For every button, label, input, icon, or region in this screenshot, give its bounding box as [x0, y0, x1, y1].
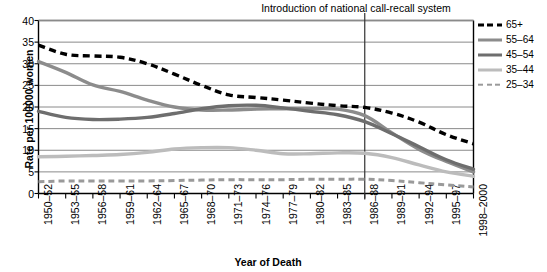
- legend-item-45-54[interactable]: 45–54: [478, 47, 547, 62]
- legend-item-25-34[interactable]: 25–34: [478, 77, 547, 92]
- legend-swatch-icon: [478, 65, 502, 75]
- legend-swatch-icon: [478, 35, 502, 45]
- plot-area: [0, 0, 547, 272]
- series-line-25-34: [39, 179, 474, 187]
- legend-swatch-icon: [478, 20, 502, 30]
- legend-item-55-64[interactable]: 55–64: [478, 32, 547, 47]
- series-line-45-54: [39, 105, 474, 169]
- legend-swatch-icon: [478, 50, 502, 60]
- legend-item-label: 65+: [506, 19, 523, 30]
- legend-swatch-icon: [478, 80, 502, 90]
- series-lines: [39, 45, 474, 187]
- legend-item-label: 55–64: [506, 34, 534, 45]
- legend-item-label: 35–44: [506, 64, 534, 75]
- x-tick-marks: [39, 194, 474, 199]
- legend-item-label: 25–34: [506, 79, 534, 90]
- legend-item-35-44[interactable]: 35–44: [478, 62, 547, 77]
- legend-item-65+[interactable]: 65+: [478, 17, 547, 32]
- legend: 65+55–6445–5435–4425–34: [478, 17, 547, 92]
- legend-item-label: 45–54: [506, 49, 534, 60]
- chart-figure: Introduction of national call-recall sys…: [0, 0, 547, 272]
